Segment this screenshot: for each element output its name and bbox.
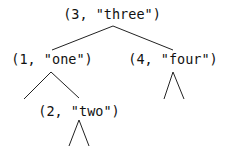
node-right: (4, "four")	[128, 51, 217, 67]
subtree-triangle-left-right	[69, 120, 89, 146]
tree-edges	[0, 0, 226, 155]
node-root: (3, "three")	[63, 6, 161, 22]
subtree-triangle-right	[164, 72, 184, 99]
edge-root-to-left	[52, 26, 113, 50]
node-left-right: (2, "two")	[38, 103, 119, 119]
subtree-triangle-left	[24, 72, 79, 99]
node-left: (1, "one")	[11, 51, 92, 67]
edge-root-to-right	[113, 26, 173, 50]
